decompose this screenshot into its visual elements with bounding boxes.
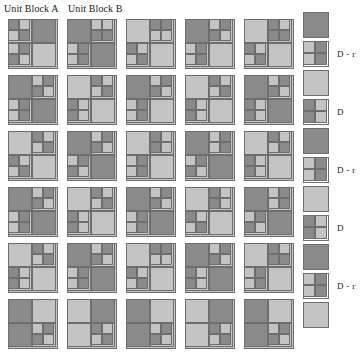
quadrant-top-right (268, 75, 292, 99)
unit-block-figure: Unit Block A Unit Block B D - rDD - rDD … (0, 0, 364, 352)
quadrant-bottom-left (185, 43, 209, 67)
legend-quad-d-r-1-swatch (303, 41, 329, 67)
sub-cell-bottom-right (161, 30, 172, 41)
sub-cell-bottom-left (150, 198, 161, 209)
sub-cell-bottom-right (102, 254, 113, 265)
sub-cell-bottom-left (244, 166, 255, 177)
sub-cell-top-left (126, 267, 137, 278)
sub-cell-top-right (255, 99, 266, 110)
quadrant-top-right (32, 243, 56, 267)
sub-cell-bottom-right (137, 110, 148, 121)
sub-cell-top-left (150, 131, 161, 142)
sub-cell-bottom-right (196, 166, 207, 177)
legend-solid-dark-3-swatch (303, 244, 329, 270)
sub-cell-bottom-left (8, 222, 19, 233)
sub-cell-bottom-left (268, 334, 279, 345)
unit-block-r4-c2 (67, 187, 117, 237)
sub-cell-top-left (185, 267, 196, 278)
quadrant-bottom-left (67, 99, 91, 123)
quadrant-top-left (185, 243, 209, 267)
sub-cell-top-left (91, 75, 102, 86)
sub-cell-top-left (32, 131, 43, 142)
unit-block-r4-c3 (126, 187, 176, 237)
sub-cell-top-right (137, 267, 148, 278)
sub-cell-top-left (244, 211, 255, 222)
sub-cell-bottom-left (67, 166, 78, 177)
sub-cell-top-right (220, 131, 231, 142)
unit-block-b-heading: Unit Block B (68, 3, 123, 15)
quadrant-top-right (150, 299, 174, 323)
sub-cell-bottom-left (244, 222, 255, 233)
quadrant-top-left (244, 299, 268, 323)
unit-block-r1-c3 (126, 19, 176, 69)
sub-cell-top-left (8, 43, 19, 54)
unit-block-r5-c2 (67, 243, 117, 293)
sub-cell-bottom-right (255, 110, 266, 121)
quadrant-bottom-right (32, 155, 56, 179)
swatch-top-right (315, 99, 327, 111)
quadrant-bottom-left (8, 99, 32, 123)
quadrant-bottom-right (91, 99, 115, 123)
sub-cell-top-right (255, 43, 266, 54)
unit-block-r6-c5 (244, 299, 294, 349)
quadrant-bottom-right (209, 155, 233, 179)
swatch-top-left (303, 41, 315, 53)
swatch-bottom-left (303, 53, 315, 65)
sub-cell-bottom-right (78, 222, 89, 233)
unit-block-r5-c3 (126, 243, 176, 293)
sub-cell-top-right (102, 187, 113, 198)
sub-cell-top-left (126, 43, 137, 54)
legend-quad-d-2-label: D (337, 223, 344, 233)
sub-cell-top-right (102, 75, 113, 86)
quadrant-bottom-left (244, 155, 268, 179)
legend-solid-dark-1-swatch (303, 12, 329, 38)
sub-cell-top-right (19, 99, 30, 110)
quadrant-bottom-right (150, 155, 174, 179)
unit-block-r6-c4 (185, 299, 235, 349)
sub-cell-top-right (43, 323, 54, 334)
quadrant-bottom-right (150, 267, 174, 291)
sub-cell-bottom-right (279, 198, 290, 209)
sub-cell-bottom-left (67, 110, 78, 121)
sub-cell-bottom-right (19, 54, 30, 65)
quadrant-bottom-right (150, 43, 174, 67)
sub-cell-bottom-left (8, 30, 19, 41)
quadrant-bottom-right (268, 267, 292, 291)
unit-block-r1-c4 (185, 19, 235, 69)
sub-cell-top-right (43, 131, 54, 142)
quadrant-bottom-left (185, 99, 209, 123)
sub-cell-bottom-right (161, 254, 172, 265)
sub-cell-top-left (32, 243, 43, 254)
swatch-bottom-left (303, 227, 315, 239)
quadrant-bottom-left (244, 267, 268, 291)
sub-cell-top-right (78, 99, 89, 110)
quadrant-bottom-left (67, 155, 91, 179)
sub-cell-bottom-right (220, 86, 231, 97)
quadrant-bottom-left (8, 323, 32, 347)
swatch-top-right (315, 273, 327, 285)
legend-row-1 (303, 12, 329, 38)
sub-cell-bottom-left (268, 142, 279, 153)
quadrant-top-left (244, 187, 268, 211)
quadrant-top-right (209, 187, 233, 211)
sub-cell-top-left (244, 155, 255, 166)
swatch-top-left (303, 157, 315, 169)
quadrant-bottom-right (150, 211, 174, 235)
sub-cell-bottom-left (91, 198, 102, 209)
sub-cell-top-left (91, 19, 102, 30)
legend-quad-d-1-label: D (337, 107, 344, 117)
sub-cell-bottom-right (137, 278, 148, 289)
sub-cell-top-right (137, 99, 148, 110)
sub-cell-bottom-right (279, 334, 290, 345)
sub-cell-bottom-right (255, 222, 266, 233)
legend-row-2: D - r (303, 41, 356, 67)
sub-cell-bottom-right (279, 30, 290, 41)
sub-cell-bottom-right (196, 54, 207, 65)
sub-cell-bottom-right (78, 110, 89, 121)
unit-block-r6-c1 (8, 299, 58, 349)
quadrant-top-left (126, 75, 150, 99)
quadrant-bottom-left (8, 267, 32, 291)
sub-cell-bottom-left (209, 254, 220, 265)
swatch-top-right (315, 157, 327, 169)
sub-cell-top-left (32, 75, 43, 86)
